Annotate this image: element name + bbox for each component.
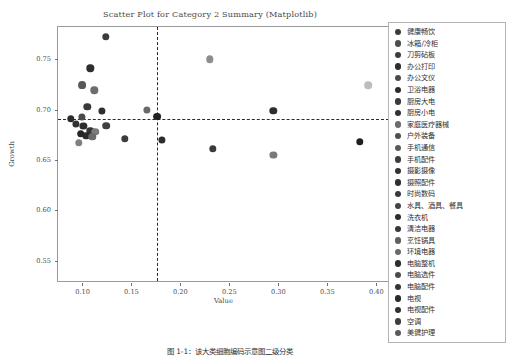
horizontal-reference-line <box>58 119 389 120</box>
legend-item[interactable]: 烹饪锅具 <box>392 235 503 247</box>
scatter-point[interactable] <box>356 138 363 145</box>
legend-item-label: 家庭医疗器械 <box>407 119 449 131</box>
legend-item[interactable]: 手机配件 <box>392 154 503 166</box>
legend-item[interactable]: 电脑配件 <box>392 281 503 293</box>
y-axis-title: Growth <box>8 141 16 167</box>
x-tick <box>229 283 230 286</box>
legend-item[interactable]: 空调 <box>392 316 503 328</box>
x-tick-label: 0.25 <box>222 288 237 296</box>
legend-item[interactable]: 厨房小电 <box>392 107 503 119</box>
legend-item[interactable]: 时尚数码 <box>392 188 503 200</box>
vertical-reference-line <box>157 27 158 281</box>
legend-item-label: 电脑整机 <box>407 258 435 270</box>
legend-item-label: 手机配件 <box>407 154 435 166</box>
legend-item[interactable]: 清洁电器 <box>392 223 503 235</box>
legend-item[interactable]: 电视 <box>392 293 503 305</box>
legend-item-label: 厨房小电 <box>407 107 435 119</box>
scatter-point[interactable] <box>102 33 109 40</box>
y-tick <box>55 210 58 211</box>
scatter-point[interactable] <box>89 133 96 140</box>
legend-marker-icon <box>395 179 401 185</box>
chart-title: Scatter Plot for Category 2 Summary (Mat… <box>0 9 420 19</box>
scatter-point[interactable] <box>144 106 151 113</box>
legend-item[interactable]: 刀剪砧板 <box>392 49 503 61</box>
legend-marker-icon <box>395 203 401 209</box>
legend-item[interactable]: 摄影摄像 <box>392 165 503 177</box>
x-tick <box>180 283 181 286</box>
legend-item-label: 手机通信 <box>407 142 435 154</box>
legend-marker-icon <box>395 284 401 290</box>
legend-item-label: 时尚数码 <box>407 188 435 200</box>
legend-item[interactable]: 手机通信 <box>392 142 503 154</box>
legend-item[interactable]: 电视配件 <box>392 304 503 316</box>
legend-item[interactable]: 户外装备 <box>392 130 503 142</box>
scatter-point[interactable] <box>87 65 94 72</box>
figure-caption: 图 1-1：该大类细胞编码示意图二级分类 <box>0 345 460 356</box>
legend-marker-icon <box>395 63 401 69</box>
scatter-point[interactable] <box>102 122 110 130</box>
scatter-point[interactable] <box>158 136 165 143</box>
x-tick <box>327 283 328 286</box>
legend-item[interactable]: 办公打印 <box>392 61 503 73</box>
legend-item[interactable]: 办公文仪 <box>392 72 503 84</box>
scatter-point[interactable] <box>84 103 91 110</box>
legend-item-label: 厨房大电 <box>407 96 435 108</box>
legend-marker-icon <box>395 133 401 139</box>
legend-marker-icon <box>395 237 401 243</box>
legend-marker-icon <box>395 110 401 116</box>
legend-item-label: 卫浴电器 <box>407 84 435 96</box>
scatter-point[interactable] <box>209 145 216 152</box>
scatter-point[interactable] <box>153 113 161 121</box>
legend-item[interactable]: 美健护理 <box>392 327 503 339</box>
legend-item[interactable]: 摄照配件 <box>392 177 503 189</box>
scatter-point[interactable] <box>98 107 105 114</box>
x-tick <box>376 283 377 286</box>
legend-item-label: 环境电器 <box>407 246 435 258</box>
legend-item-label: 摄影摄像 <box>407 165 435 177</box>
legend-item[interactable]: 健康畅饮 <box>392 26 503 38</box>
legend-item[interactable]: 冰箱/冷柜 <box>392 38 503 50</box>
legend-marker-icon <box>395 191 401 197</box>
y-tick <box>55 110 58 111</box>
scatter-point[interactable] <box>270 107 277 114</box>
legend-item[interactable]: 环境电器 <box>392 246 503 258</box>
scatter-point[interactable] <box>79 82 87 90</box>
legend-item-label: 冰箱/冷柜 <box>407 38 437 50</box>
scatter-point[interactable] <box>365 82 373 90</box>
y-tick <box>55 59 58 60</box>
x-tick-label: 0.30 <box>271 288 286 296</box>
legend-marker-icon <box>395 52 401 58</box>
legend-marker-icon <box>395 295 401 301</box>
scatter-point[interactable] <box>206 56 213 63</box>
legend-item-label: 户外装备 <box>407 130 435 142</box>
legend-marker-icon <box>395 307 401 313</box>
legend-item-label: 美健护理 <box>407 327 435 339</box>
legend-marker-icon <box>395 168 401 174</box>
scatter-point[interactable] <box>91 87 98 94</box>
scatter-point[interactable] <box>72 120 79 127</box>
x-axis-title: Value <box>57 297 390 305</box>
x-tick <box>131 283 132 286</box>
scatter-point[interactable] <box>121 135 128 142</box>
y-tick-label: 0.55 <box>36 257 51 265</box>
y-tick-label: 0.75 <box>36 55 51 63</box>
legend-marker-icon <box>395 226 401 232</box>
legend-item-label: 空调 <box>407 316 421 328</box>
legend-item-label: 健康畅饮 <box>407 26 435 38</box>
legend-item[interactable]: 卫浴电器 <box>392 84 503 96</box>
legend-item-label: 电视 <box>407 293 421 305</box>
legend-item-label: 刀剪砧板 <box>407 49 435 61</box>
legend-marker-icon <box>395 260 401 266</box>
legend-item[interactable]: 水具、酒具、餐具 <box>392 200 503 212</box>
scatter-point[interactable] <box>270 151 277 158</box>
legend-marker-icon <box>395 40 401 46</box>
x-tick-label: 0.20 <box>173 288 188 296</box>
legend-item[interactable]: 厨房大电 <box>392 96 503 108</box>
legend-item[interactable]: 洗衣机 <box>392 212 503 224</box>
legend-item[interactable]: 电脑选件 <box>392 269 503 281</box>
legend-item[interactable]: 家庭医疗器械 <box>392 119 503 131</box>
legend-item-label: 电脑选件 <box>407 269 435 281</box>
scatter-point[interactable] <box>75 139 82 146</box>
legend-item[interactable]: 电脑整机 <box>392 258 503 270</box>
legend-item-label: 电脑配件 <box>407 281 435 293</box>
